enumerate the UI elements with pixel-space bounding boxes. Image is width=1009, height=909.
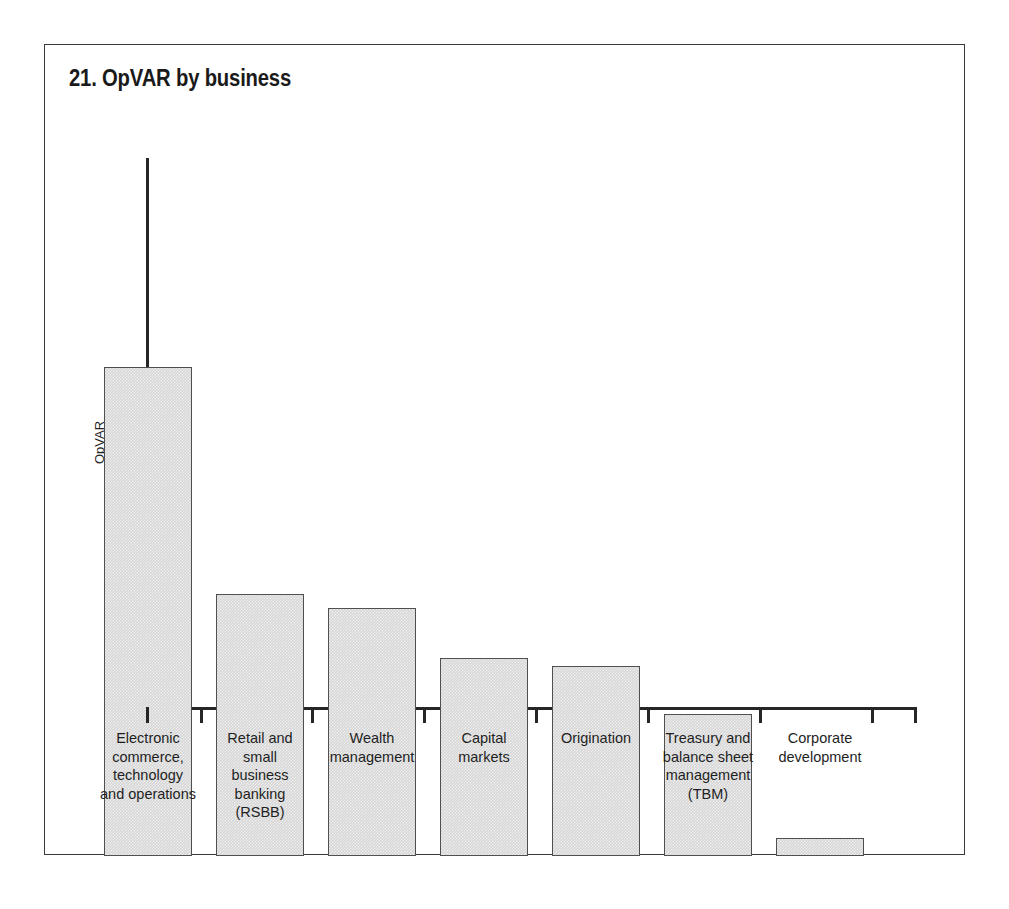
x-axis-tick	[759, 707, 762, 723]
x-axis-tick	[200, 707, 203, 723]
bar	[552, 666, 640, 856]
bar-group	[440, 305, 528, 856]
plot-area: OpVAR Electronic commerce, technology an…	[45, 45, 966, 856]
category-label: Retail and small business banking (RSBB)	[205, 729, 315, 822]
bar-group	[776, 305, 864, 856]
bar	[776, 838, 864, 856]
x-axis-tick	[423, 707, 426, 723]
bar-group	[328, 305, 416, 856]
x-axis-tick	[914, 707, 917, 723]
figure-frame: 21. OpVAR by business OpVAR Electronic c…	[44, 44, 965, 855]
bar-group	[552, 305, 640, 856]
category-label: Wealth management	[313, 729, 431, 766]
category-label: Capital markets	[428, 729, 540, 766]
category-label: Electronic commerce, technology and oper…	[85, 729, 211, 803]
x-axis-tick	[535, 707, 538, 723]
category-label: Corporate development	[759, 729, 881, 766]
x-axis-tick	[146, 707, 149, 723]
x-axis-tick	[311, 707, 314, 723]
x-axis-tick	[871, 707, 874, 723]
category-label: Origination	[538, 729, 654, 748]
category-label: Treasury and balance sheet management (T…	[642, 729, 774, 803]
x-axis-tick	[647, 707, 650, 723]
